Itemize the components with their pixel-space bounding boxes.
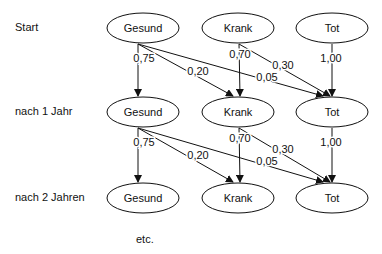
state-node-tot-row-1: Tot xyxy=(296,97,368,127)
probability-label: 0,30 xyxy=(272,59,293,71)
state-node-krank-row-1: Krank xyxy=(202,97,274,127)
probability-label: 1,00 xyxy=(320,136,341,148)
state-label: Tot xyxy=(325,192,340,204)
probability-label: 1,00 xyxy=(320,52,341,64)
probability-label: 0,05 xyxy=(256,155,277,167)
state-node-gesund-row-2: Gesund xyxy=(107,183,179,213)
probability-label: 0,70 xyxy=(229,132,250,144)
probability-label: 0,05 xyxy=(256,71,277,83)
probability-label: 0,75 xyxy=(133,52,154,64)
state-node-gesund-row-1: Gesund xyxy=(107,97,179,127)
state-label: Gesund xyxy=(124,22,163,34)
state-node-tot-row-0: Tot xyxy=(296,13,368,43)
state-node-krank-row-0: Krank xyxy=(202,13,274,43)
probability-label: 0,30 xyxy=(272,143,293,155)
edge-krank-to-tot xyxy=(239,128,330,182)
state-label: Tot xyxy=(325,22,340,34)
probability-label: 0,20 xyxy=(187,65,208,77)
state-label: Krank xyxy=(224,192,253,204)
state-label: Krank xyxy=(224,22,253,34)
probability-label: 0,75 xyxy=(133,136,154,148)
probability-label: 0,20 xyxy=(187,149,208,161)
state-label: Gesund xyxy=(124,192,163,204)
state-nodes: GesundKrankTotGesundKrankTotGesundKrankT… xyxy=(107,13,368,213)
probability-label: 0,70 xyxy=(229,48,250,60)
state-node-tot-row-2: Tot xyxy=(296,183,368,213)
markov-chain-diagram: GesundKrankTotGesundKrankTotGesundKrankT… xyxy=(0,0,382,254)
state-label: Gesund xyxy=(124,106,163,118)
state-label: Tot xyxy=(325,106,340,118)
state-node-krank-row-2: Krank xyxy=(202,183,274,213)
state-node-gesund-row-0: Gesund xyxy=(107,13,179,43)
state-label: Krank xyxy=(224,106,253,118)
